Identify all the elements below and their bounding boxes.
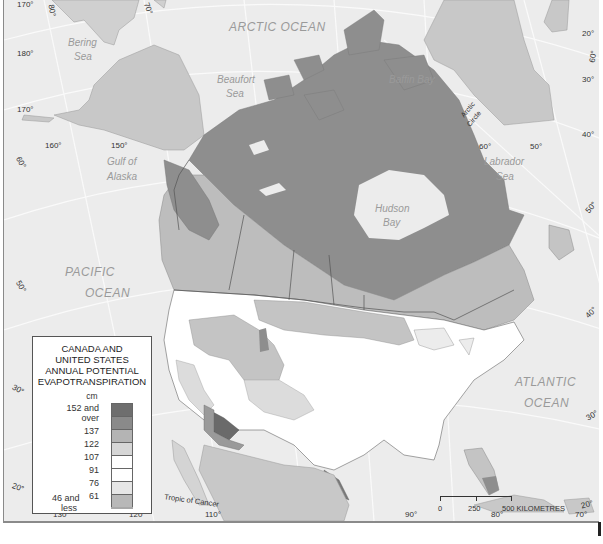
- beaufort-sea-label-1: Beaufort: [217, 73, 255, 87]
- legend-label: 61: [89, 491, 99, 501]
- aleutian-islands: [22, 115, 54, 122]
- lon-label: 160°: [45, 141, 62, 150]
- lon-label: 170°: [17, 0, 34, 9]
- legend-label: 152 and: [66, 403, 99, 413]
- lon-label: 60°: [479, 142, 491, 151]
- lon-label: 70°: [575, 510, 587, 519]
- legend-title-line: ANNUAL POTENTIAL: [33, 365, 151, 376]
- lon-label: 110°: [205, 510, 221, 519]
- pacific-ocean-label-2: OCEAN: [85, 283, 130, 303]
- atlantic-ocean-label-1: ATLANTIC: [515, 372, 576, 392]
- beaufort-sea-label-2: Sea: [226, 87, 244, 101]
- legend-title: CANADA AND UNITED STATES ANNUAL POTENTIA…: [33, 343, 151, 387]
- atlantic-ocean-label-2: OCEAN: [524, 393, 569, 413]
- legend-title-line: EVAPOTRANSPIRATION: [33, 376, 151, 387]
- lon-label: 20°: [582, 29, 594, 38]
- legend-swatch: [111, 455, 133, 469]
- bering-sea-label-2: Sea: [74, 50, 92, 64]
- lat-label: 80°: [47, 4, 58, 17]
- page-edge-mark: [598, 522, 601, 536]
- legend-unit: cm: [33, 391, 151, 401]
- scale-tick: [440, 496, 441, 501]
- legend-swatch: [111, 416, 133, 430]
- legend: CANADA AND UNITED STATES ANNUAL POTENTIA…: [32, 336, 152, 514]
- hudson-bay-label-2: Bay: [383, 216, 400, 230]
- legend-label: 46 and: [52, 493, 80, 503]
- lon-label: 180°: [17, 49, 34, 58]
- hudson-bay-label-1: Hudson: [375, 202, 409, 216]
- legend-title-line: UNITED STATES: [33, 354, 151, 365]
- legend-label: 137: [84, 426, 99, 436]
- legend-label: less: [61, 503, 77, 513]
- lon-label: 170°: [17, 105, 34, 114]
- scale-label: 500 KILOMETRES: [502, 504, 565, 513]
- baffin-bay-label: Baffin Bay: [389, 73, 435, 87]
- legend-swatch: [111, 468, 133, 482]
- legend-label: over: [81, 413, 99, 423]
- legend-label: 107: [84, 452, 99, 462]
- lon-label: 40°: [582, 130, 594, 139]
- legend-title-line: CANADA AND: [33, 343, 151, 354]
- legend-swatch: [111, 507, 133, 509]
- labrador-sea-label-2: Sea: [496, 170, 514, 184]
- lon-label: 30°: [582, 75, 594, 84]
- gulf-of-alaska-label-2: Alaska: [107, 170, 137, 184]
- map-frame: ARCTIC OCEAN Bering Sea Beaufort Sea Baf…: [3, 0, 599, 523]
- scale-tick: [511, 496, 512, 501]
- arctic-ocean-label: ARCTIC OCEAN: [229, 17, 326, 37]
- newfoundland-land: [549, 225, 574, 260]
- legend-label: 122: [84, 439, 99, 449]
- scale-label: 0: [438, 504, 442, 513]
- chukotka-island: [154, 0, 166, 8]
- legend-swatch: [111, 481, 133, 495]
- legend-swatch: [111, 403, 133, 417]
- iceland-land: [544, 0, 569, 32]
- legend-label: 91: [89, 465, 99, 475]
- gulf-of-alaska-label-1: Gulf of: [107, 155, 136, 169]
- lon-label: 90°: [405, 510, 417, 519]
- lon-label: 150°: [111, 141, 128, 150]
- pacific-ocean-label-1: PACIFIC: [65, 262, 115, 282]
- labrador-sea-label-1: Labrador: [484, 155, 524, 169]
- scale-label: 250: [468, 504, 481, 513]
- lon-label: 50°: [530, 142, 542, 151]
- legend-swatch: [111, 494, 133, 508]
- bering-sea-label-1: Bering: [68, 36, 97, 50]
- legend-label: 76: [89, 478, 99, 488]
- legend-swatch: [111, 429, 133, 443]
- legend-swatch: [111, 442, 133, 456]
- scale-tick: [476, 496, 477, 501]
